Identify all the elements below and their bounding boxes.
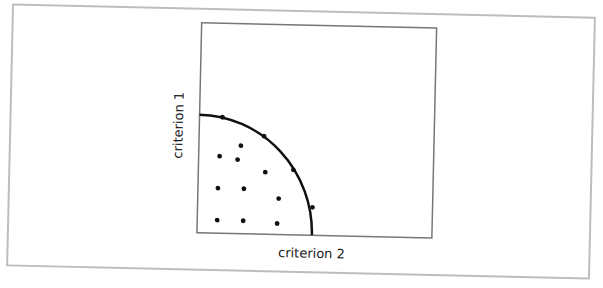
data-points — [215, 115, 317, 227]
data-point — [263, 170, 268, 175]
data-point — [215, 186, 220, 191]
data-point — [241, 218, 246, 223]
data-point — [238, 143, 243, 148]
data-point — [217, 154, 222, 159]
data-point — [215, 218, 220, 223]
plot-box — [197, 23, 437, 238]
x-axis-label: criterion 2 — [278, 245, 345, 262]
data-point — [235, 157, 240, 162]
frontier-curve — [197, 115, 315, 236]
data-point — [276, 196, 281, 201]
y-axis-label: criterion 1 — [170, 92, 187, 159]
data-point — [241, 186, 246, 191]
figure: criterion 1 criterion 2 — [0, 0, 603, 288]
data-point — [275, 221, 280, 226]
